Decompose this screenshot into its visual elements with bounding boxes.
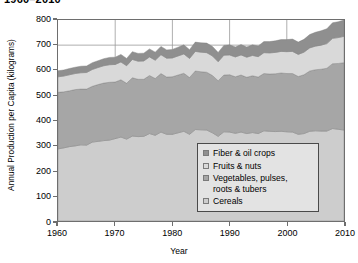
y-tick-label: 100 <box>11 191 51 201</box>
y-tick-mark <box>53 171 57 172</box>
legend-item: Fiber & oil crops <box>203 148 313 159</box>
legend-item: Vegetables, pulses, roots & tubers <box>203 173 313 194</box>
x-tick-label: 1960 <box>37 228 77 238</box>
y-tick-label: 700 <box>11 39 51 49</box>
y-tick-mark <box>53 145 57 146</box>
y-tick-label: 300 <box>11 140 51 150</box>
y-tick-mark <box>53 18 57 19</box>
x-tick-mark <box>114 222 115 226</box>
y-tick-mark <box>53 120 57 121</box>
chart-figure: 1960–2010 Annual Production per Capita (… <box>0 0 358 263</box>
x-tick-label: 1990 <box>210 228 250 238</box>
legend-swatch-fiber-oil-crops <box>203 150 209 156</box>
x-tick-label: 1970 <box>95 228 135 238</box>
y-tick-label: 400 <box>11 115 51 125</box>
legend-item: Cereals <box>203 196 313 207</box>
legend-item: Fruits & nuts <box>203 161 313 172</box>
legend-swatch-fruits-nuts <box>203 163 209 169</box>
y-tick-label: 500 <box>11 90 51 100</box>
x-tick-label: 1980 <box>152 228 192 238</box>
x-tick-label: 2000 <box>267 228 307 238</box>
y-tick-mark <box>53 69 57 70</box>
legend-label: Fiber & oil crops <box>213 148 275 159</box>
y-tick-label: 0 <box>11 217 51 227</box>
y-tick-label: 200 <box>11 166 51 176</box>
y-tick-mark <box>53 44 57 45</box>
y-tick-mark <box>53 95 57 96</box>
legend-label: Fruits & nuts <box>213 161 261 172</box>
chart-title: 1960–2010 <box>4 0 61 5</box>
x-tick-mark <box>229 222 230 226</box>
x-tick-mark <box>172 222 173 226</box>
x-axis-title: Year <box>0 246 358 256</box>
legend-swatch-cereals <box>203 198 209 204</box>
legend-label: Vegetables, pulses, roots & tubers <box>213 173 288 194</box>
legend-label: Cereals <box>213 196 243 207</box>
x-tick-mark <box>344 222 345 226</box>
legend-swatch-vegetables-pulses-roots-tubers <box>203 175 209 181</box>
y-tick-mark <box>53 196 57 197</box>
chart-legend: Fiber & oil crops Fruits & nuts Vegetabl… <box>197 143 319 212</box>
y-tick-label: 600 <box>11 64 51 74</box>
x-tick-mark <box>287 222 288 226</box>
y-tick-label: 800 <box>11 14 51 24</box>
x-tick-mark <box>56 222 57 226</box>
x-tick-label: 2010 <box>325 228 358 238</box>
